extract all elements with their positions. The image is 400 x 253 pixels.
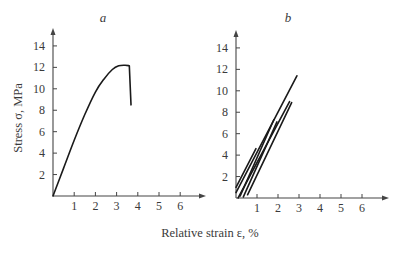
chart-canvas: a1234562468101214 b1234562468101214 Stre… — [0, 0, 400, 253]
y-tick-label: 6 — [39, 125, 45, 139]
y-tick-label: 8 — [39, 103, 45, 117]
y-tick-label: 10 — [33, 82, 45, 96]
y-tick-label: 4 — [222, 148, 228, 162]
x-tick-label: 6 — [359, 201, 365, 215]
panel-a: a1234562468101214 — [33, 10, 206, 213]
x-tick-label: 5 — [156, 199, 162, 213]
y-tick-label: 4 — [39, 146, 45, 160]
x-tick-label: 3 — [296, 201, 302, 215]
y-tick-label: 6 — [222, 127, 228, 141]
y-axis-arrow-icon — [234, 30, 239, 37]
x-tick-label: 4 — [135, 199, 141, 213]
stress-strain-figure: a1234562468101214 b1234562468101214 Stre… — [0, 0, 400, 253]
y-tick-label: 14 — [216, 41, 228, 55]
x-tick-label: 2 — [92, 199, 98, 213]
x-tick-label: 1 — [254, 201, 260, 215]
panel-b: b1234562468101214 — [216, 10, 389, 215]
y-tick-label: 2 — [39, 168, 45, 182]
y-tick-label: 10 — [216, 84, 228, 98]
y-axis-arrow-icon — [51, 28, 56, 35]
y-tick-label: 12 — [33, 60, 45, 74]
y-axis-title: Stress σ, MPa — [11, 83, 25, 153]
x-tick-label: 1 — [71, 199, 77, 213]
y-tick-label: 8 — [222, 105, 228, 119]
data-series-line — [243, 122, 277, 197]
y-tick-label: 14 — [33, 39, 45, 53]
data-series-line — [53, 65, 131, 196]
x-tick-label: 2 — [275, 201, 281, 215]
x-tick-label: 3 — [114, 199, 120, 213]
x-tick-label: 4 — [317, 201, 323, 215]
x-tick-label: 5 — [338, 201, 344, 215]
data-series-line — [236, 76, 297, 193]
data-series-line — [248, 103, 292, 195]
data-series-line — [240, 120, 274, 196]
x-tick-label: 6 — [177, 199, 183, 213]
y-tick-label: 12 — [216, 62, 228, 76]
panel-label: a — [100, 10, 107, 25]
panel-label: b — [285, 10, 292, 25]
x-axis-title: Relative strain ε, % — [161, 226, 259, 240]
x-axis-arrow-icon — [199, 194, 206, 199]
x-axis-arrow-icon — [382, 196, 389, 201]
y-tick-label: 2 — [222, 170, 228, 184]
